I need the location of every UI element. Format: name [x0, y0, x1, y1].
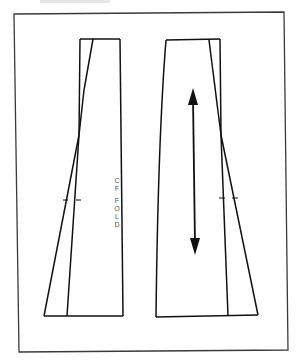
cf-fold-label: C F F O L D	[113, 177, 121, 229]
label-char: F	[113, 197, 121, 205]
label-char: F	[113, 185, 121, 193]
pattern-diagram	[0, 0, 299, 364]
back-pattern-piece	[156, 39, 258, 317]
front-pattern-piece	[44, 39, 123, 316]
label-char: O	[113, 205, 121, 213]
label-char: L	[113, 213, 121, 221]
diagram-frame	[14, 12, 288, 352]
label-char: C	[113, 177, 121, 185]
label-char: D	[113, 221, 121, 229]
grainline-arrow-icon	[188, 88, 200, 255]
